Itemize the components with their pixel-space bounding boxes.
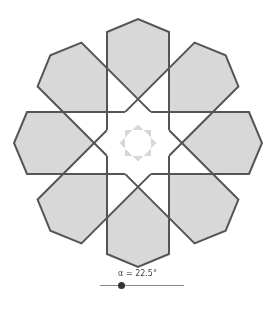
rosette-figure xyxy=(0,0,275,275)
alpha-slider-track[interactable] xyxy=(100,285,184,286)
alpha-slider-knob[interactable] xyxy=(118,282,125,289)
alpha-slider-label: α = 22.5° xyxy=(0,269,275,278)
